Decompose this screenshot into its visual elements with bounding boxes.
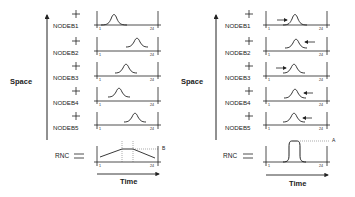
aggregate-curve [100,149,155,158]
svg-text:1: 1 [99,78,101,82]
annotation-a: A [332,137,336,143]
nodeb-panel: NODEB4 1 24 [225,87,330,107]
svg-text:24: 24 [150,103,154,107]
svg-text:1: 1 [99,103,101,107]
plus-icon [245,62,253,70]
plus-icon [245,10,253,18]
node-label: NODEB1 [53,22,79,29]
nodeb-panel: NODEB1 1 24 [53,10,161,31]
traffic-peak [124,113,146,122]
svg-text:24: 24 [319,103,323,107]
nodeb-panel: NODEB5 1 24 [53,112,161,131]
node-label: NODEB5 [53,124,79,131]
plus-icon [245,112,253,120]
rnc-label: RNC [223,152,237,159]
traffic-peak [101,15,127,26]
svg-text:1: 1 [99,27,101,31]
svg-text:24: 24 [150,164,154,168]
annotation-b: B [162,145,166,151]
svg-text:24: 24 [319,78,323,82]
svg-text:1: 1 [268,164,270,168]
svg-text:24: 24 [150,78,154,82]
left-diagram: Space NODEB1 1 24 NODEB2 1 24 NODEB3 [10,10,166,186]
equals-icon [243,154,253,158]
traffic-peak [283,113,305,122]
nodeb-panel: NODEB1 1 24 [225,10,330,31]
plus-icon [72,62,80,70]
time-axis-label: Time [120,177,137,186]
aggregate-spike [283,141,306,162]
plus-icon [245,37,253,45]
right-diagram: Space NODEB1 1 24 NODEB2 1 24 [181,10,336,188]
node-label: NODEB3 [225,74,251,81]
traffic-peak [285,39,307,48]
traffic-peak [284,89,306,98]
space-axis-label: Space [181,77,203,86]
diagram-canvas: Space NODEB1 1 24 NODEB2 1 24 NODEB3 [0,0,355,197]
traffic-peak [283,64,305,73]
traffic-peak [108,88,130,97]
svg-text:24: 24 [319,53,323,57]
svg-text:24: 24 [150,53,154,57]
traffic-peak [115,64,137,73]
rnc-panel: RNC A 1 24 Time [223,137,336,188]
plus-icon [72,10,80,18]
space-axis-label: Space [10,77,32,86]
equals-icon [74,154,84,158]
svg-text:1: 1 [268,103,270,107]
node-label: NODEB4 [53,99,79,106]
rnc-label: RNC [55,152,69,159]
node-label: NODEB2 [53,49,79,56]
svg-text:24: 24 [319,164,323,168]
plus-icon [245,87,253,95]
svg-text:1: 1 [268,78,270,82]
node-label: NODEB2 [225,49,251,56]
node-label: NODEB5 [225,124,251,131]
nodeb-panel: NODEB5 1 24 [225,112,330,131]
traffic-peak [126,38,148,47]
node-label: NODEB1 [225,22,251,29]
time-axis-label: Time [289,179,306,188]
nodeb-panel: NODEB4 1 24 [53,87,161,107]
svg-text:1: 1 [99,164,101,168]
svg-text:1: 1 [99,53,101,57]
svg-text:1: 1 [268,53,270,57]
plus-icon [72,112,80,120]
nodeb-panel: NODEB2 1 24 [53,37,161,57]
node-label: NODEB3 [53,74,79,81]
svg-text:24: 24 [150,27,154,31]
svg-text:1: 1 [268,127,270,131]
svg-text:1: 1 [268,27,270,31]
svg-text:24: 24 [319,27,323,31]
nodeb-panel: NODEB3 1 24 [53,62,161,82]
plus-icon [72,87,80,95]
svg-text:1: 1 [99,127,101,131]
nodeb-panel: NODEB3 1 24 [225,62,330,82]
svg-text:24: 24 [319,127,323,131]
nodeb-panel: NODEB2 1 24 [225,37,330,57]
svg-text:24: 24 [150,127,154,131]
node-label: NODEB4 [225,99,251,106]
rnc-panel: RNC B 1 24 Time [55,141,166,186]
plus-icon [72,37,80,45]
